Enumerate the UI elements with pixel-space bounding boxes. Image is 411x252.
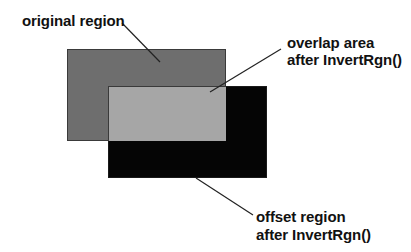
original-region-label: original region bbox=[22, 12, 125, 29]
invertrgn-diagram: original region overlap area after Inver… bbox=[0, 0, 411, 252]
offset-region-label-sub: after InvertRgn() bbox=[256, 226, 371, 243]
offset-leader-line bbox=[196, 178, 253, 215]
original-leader-line bbox=[122, 23, 160, 62]
overlap-area-label: overlap area bbox=[287, 34, 374, 51]
overlap-leader-line bbox=[210, 49, 281, 92]
overlap-area-label-sub: after InvertRgn() bbox=[287, 51, 402, 68]
offset-region-label: offset region bbox=[256, 208, 346, 225]
